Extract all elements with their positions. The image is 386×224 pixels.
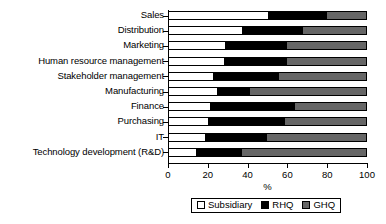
bar-row: [168, 133, 367, 142]
bar-row: [168, 72, 367, 81]
y-axis-tick: [163, 122, 168, 123]
category-label: Distribution: [0, 25, 164, 35]
bar-segment-rhq: [210, 103, 295, 110]
x-axis-tick-label: 80: [312, 169, 342, 180]
bar-segment-subsidiary: [169, 149, 196, 156]
bar-segment-rhq: [242, 27, 303, 34]
bar-segment-ghq: [327, 12, 366, 19]
x-axis-tick: [327, 164, 328, 168]
plot-area: [168, 11, 367, 163]
y-axis-tick: [163, 61, 168, 62]
bar-row: [168, 102, 367, 111]
bar-row: [168, 117, 367, 126]
stacked-bar-chart: SalesDistributionMarketingHuman resource…: [0, 0, 386, 224]
y-axis-tick: [163, 46, 168, 47]
bar-segment-rhq: [208, 118, 285, 125]
bar-segment-ghq: [295, 103, 366, 110]
y-axis-tick: [163, 31, 168, 32]
legend-swatch-icon: [302, 201, 310, 209]
legend-swatch-icon: [261, 201, 269, 209]
bar-row: [168, 26, 367, 35]
bar-segment-rhq: [224, 58, 287, 65]
bar-row: [168, 87, 367, 96]
bar-row: [168, 148, 367, 157]
x-axis-tick-label: 20: [193, 169, 223, 180]
bar-segment-subsidiary: [169, 73, 213, 80]
x-axis-line: [168, 163, 368, 164]
bar-segment-ghq: [242, 149, 366, 156]
bar-segment-rhq: [213, 73, 279, 80]
x-axis-tick: [367, 164, 368, 168]
legend-item: RHQ: [261, 200, 293, 210]
category-label: Purchasing: [0, 116, 164, 126]
bar-segment-rhq: [196, 149, 242, 156]
category-label: Stakeholder management: [0, 71, 164, 81]
legend-swatch-icon: [197, 201, 205, 209]
bar-segment-rhq: [225, 42, 287, 49]
category-label: IT: [0, 132, 164, 142]
category-axis-labels: SalesDistributionMarketingHuman resource…: [0, 11, 164, 163]
bar-row: [168, 41, 367, 50]
x-axis-tick-label: 100: [352, 169, 382, 180]
y-axis-tick: [163, 152, 168, 153]
category-label: Manufacturing: [0, 86, 164, 96]
bar-segment-ghq: [267, 134, 366, 141]
legend-item: GHQ: [302, 200, 335, 210]
x-axis-title: %: [168, 181, 367, 192]
bar-segment-ghq: [287, 58, 366, 65]
bar-segment-subsidiary: [169, 12, 268, 19]
category-label: Finance: [0, 101, 164, 111]
x-axis-tick: [287, 164, 288, 168]
y-axis-tick: [163, 76, 168, 77]
y-axis-tick: [163, 107, 168, 108]
category-label: Sales: [0, 10, 164, 20]
bar-segment-ghq: [250, 88, 366, 95]
bar-segment-subsidiary: [169, 88, 217, 95]
bar-segment-rhq: [205, 134, 267, 141]
bar-segment-ghq: [287, 42, 366, 49]
bar-segment-subsidiary: [169, 27, 242, 34]
bar-segment-subsidiary: [169, 58, 224, 65]
category-label: Human resource management: [0, 56, 164, 66]
chart-legend: SubsidiaryRHQGHQ: [191, 198, 341, 213]
bar-segment-subsidiary: [169, 103, 210, 110]
y-axis-tick: [163, 92, 168, 93]
bar-segment-rhq: [268, 12, 327, 19]
bar-segment-ghq: [285, 118, 366, 125]
x-axis-tick-label: 0: [153, 169, 183, 180]
x-axis-tick: [168, 164, 169, 168]
legend-item: Subsidiary: [197, 200, 252, 210]
bar-segment-subsidiary: [169, 42, 225, 49]
y-axis-tick: [163, 137, 168, 138]
category-label: Marketing: [0, 40, 164, 50]
bar-segment-ghq: [279, 73, 366, 80]
bar-segment-subsidiary: [169, 134, 205, 141]
bar-segment-rhq: [217, 88, 250, 95]
category-label: Technology development (R&D): [0, 147, 164, 157]
legend-label: GHQ: [313, 200, 335, 210]
x-axis-tick: [208, 164, 209, 168]
x-axis-tick-label: 60: [272, 169, 302, 180]
bar-row: [168, 11, 367, 20]
bar-row: [168, 57, 367, 66]
x-axis-tick-label: 40: [233, 169, 263, 180]
legend-label: Subsidiary: [208, 200, 252, 210]
bar-segment-ghq: [303, 27, 366, 34]
y-axis-line: [168, 10, 169, 164]
bar-segment-subsidiary: [169, 118, 208, 125]
y-axis-tick: [163, 16, 168, 17]
legend-label: RHQ: [272, 200, 293, 210]
x-axis-tick: [248, 164, 249, 168]
